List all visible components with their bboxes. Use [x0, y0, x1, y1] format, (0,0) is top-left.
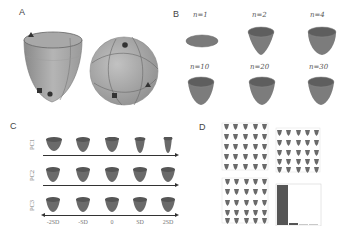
pc2-axis [43, 185, 177, 186]
panel-label-b: B [173, 9, 179, 19]
sphere-shape [88, 33, 160, 109]
circle-marker-icon [47, 91, 52, 96]
shape-n2 [247, 26, 275, 56]
bar-1 [277, 185, 288, 225]
pc2-cups [43, 167, 183, 183]
pc3-label: PC3 [28, 200, 35, 211]
shape-n4 [307, 26, 337, 56]
square-marker-icon [112, 93, 117, 98]
n-label-30: n=30 [309, 63, 328, 71]
pc3-axis [43, 215, 177, 216]
tick-zero: 0 [111, 219, 114, 225]
pairplot [216, 121, 336, 226]
shape-n10 [187, 76, 215, 106]
tick-minus-2sd: -2SD [47, 219, 60, 225]
pc1-label: PC1 [28, 139, 35, 150]
n-label-20: n=20 [250, 63, 269, 71]
pc1-cups [43, 137, 183, 153]
pc1-axis [43, 155, 177, 156]
n-label-4: n=4 [310, 11, 325, 19]
grid-1 [224, 124, 267, 170]
pc3-cups [43, 197, 183, 213]
tick-minus-sd: -SD [78, 219, 88, 225]
tick-sd: SD [136, 219, 144, 225]
bar-2 [289, 223, 298, 225]
panel-label-c: C [10, 121, 17, 131]
grid-2 [277, 130, 319, 173]
square-marker-icon [37, 88, 42, 93]
panel-label-d: D [199, 122, 206, 132]
n-label-10: n=10 [190, 63, 209, 71]
n-label-2: n=2 [252, 11, 267, 19]
grid-3 [225, 179, 267, 224]
shape-n20 [248, 76, 276, 106]
tick-2sd: 2SD [163, 219, 174, 225]
shape-n30 [307, 76, 335, 106]
ventricle-shape [20, 26, 85, 106]
pc2-label: PC2 [28, 170, 35, 181]
n-label-1: n=1 [193, 11, 208, 19]
shape-n1 [184, 33, 220, 49]
circle-marker-icon [122, 42, 128, 48]
panel-label-a: A [19, 7, 25, 17]
